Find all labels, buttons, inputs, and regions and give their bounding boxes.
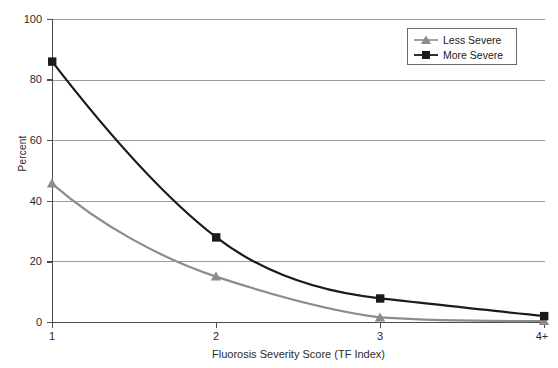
ytick-label-80: 80: [6, 74, 42, 85]
series-line-less-severe: [52, 184, 544, 321]
ytick-label-20: 20: [6, 256, 42, 267]
chart-legend: Less Severe More Severe: [407, 28, 517, 65]
ytick-label-40: 40: [6, 196, 42, 207]
data-point-more-severe-2: [212, 233, 220, 241]
legend-item-less-severe: Less Severe: [412, 32, 511, 47]
x-axis-title: Fluorosis Severity Score (TF Index): [52, 348, 545, 360]
ytick-label-100: 100: [6, 14, 42, 25]
data-point-more-severe-3: [376, 294, 384, 302]
fluorosis-severity-line-chart: 100 80 60 40 20 0 1 2 3 4+ Percent Fluor…: [0, 0, 558, 368]
square-marker-icon: [412, 48, 440, 62]
data-point-more-severe-4: [540, 312, 548, 320]
triangle-marker-icon: [412, 33, 440, 47]
y-axis-title: Percent: [17, 114, 28, 194]
ytick-label-0: 0: [6, 317, 42, 328]
xtick-label-1: 1: [32, 331, 72, 342]
legend-item-more-severe: More Severe: [412, 47, 511, 62]
legend-label-more-severe: More Severe: [440, 49, 503, 61]
data-point-less-severe-1: [47, 179, 57, 188]
legend-label-less-severe: Less Severe: [440, 34, 501, 46]
xtick-label-3: 3: [360, 331, 400, 342]
series-markers-less-severe: [47, 179, 549, 325]
xtick-label-4plus: 4+: [522, 331, 558, 342]
data-point-more-severe-1: [48, 57, 56, 65]
xtick-label-2: 2: [196, 331, 236, 342]
series-line-more-severe: [52, 61, 544, 316]
